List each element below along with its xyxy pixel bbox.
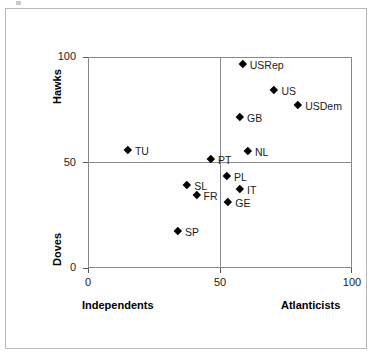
data-point-label-ge: GE	[235, 198, 250, 209]
x-tick-0	[88, 268, 89, 273]
data-point-label-it: IT	[247, 185, 256, 196]
x-tick-50	[220, 268, 221, 273]
x-tick-label-0: 0	[68, 277, 108, 288]
x-tick-label-100: 100	[332, 277, 372, 288]
data-point-label-fr: FR	[204, 191, 218, 202]
data-point-label-sp: SP	[185, 227, 199, 238]
scan-artifact-speck	[16, 1, 21, 5]
y-axis-title-hawks: Hawks	[52, 69, 63, 104]
y-axis-title-doves: Doves	[52, 233, 63, 266]
scatter-chart-figure: 100 50 0 0 50 100 Hawks Doves Independen…	[0, 0, 378, 360]
x-tick-label-50: 50	[200, 277, 240, 288]
data-point-label-usdem: USDem	[305, 101, 342, 112]
data-point-label-pl: PL	[234, 172, 247, 183]
data-point-label-pt: PT	[218, 155, 231, 166]
data-point-label-nl: NL	[255, 147, 268, 158]
data-point-label-us: US	[281, 86, 296, 97]
x-tick-100	[351, 268, 352, 273]
y-tick-100	[83, 57, 88, 58]
y-tick-label-100: 100	[36, 51, 76, 62]
data-point-label-gb: GB	[247, 113, 262, 124]
x-axis-title-independents: Independents	[82, 300, 154, 311]
y-tick-label-50: 50	[36, 157, 76, 168]
x-axis-title-atlanticists: Atlanticists	[281, 300, 340, 311]
y-tick-50	[83, 162, 88, 163]
data-point-label-tu: TU	[135, 146, 149, 157]
data-point-label-usrep: USRep	[250, 60, 284, 71]
